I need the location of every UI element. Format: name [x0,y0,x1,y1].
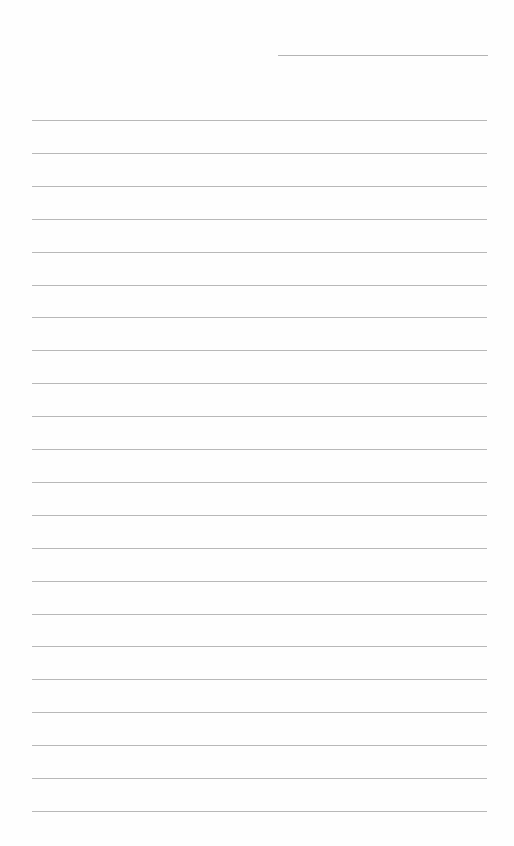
lined-page [0,0,514,846]
ruled-line [32,317,487,318]
ruled-line [32,614,487,615]
ruled-line [32,811,487,812]
ruled-line [32,252,487,253]
ruled-line [32,515,487,516]
ruled-line [32,482,487,483]
ruled-line [32,778,487,779]
ruled-line [32,350,487,351]
ruled-line [32,548,487,549]
ruled-line [32,153,487,154]
ruled-line [32,646,487,647]
ruled-line [32,120,487,121]
ruled-line [32,449,487,450]
ruled-line [32,285,487,286]
ruled-line [32,186,487,187]
ruled-line [32,745,487,746]
ruled-line [32,712,487,713]
ruled-line [32,383,487,384]
ruled-line [32,581,487,582]
ruled-line [32,219,487,220]
header-date-line [278,55,488,56]
ruled-line [32,679,487,680]
ruled-line [32,416,487,417]
